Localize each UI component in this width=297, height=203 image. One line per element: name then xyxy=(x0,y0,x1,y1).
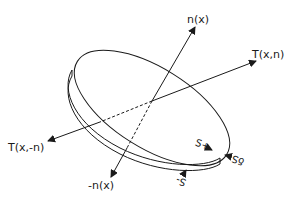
hidden-line-traction-neg xyxy=(100,101,152,122)
disc-rim xyxy=(68,70,220,171)
label-traction-neg: T(x,-n) xyxy=(8,142,44,153)
label-traction-pos: T(x,n) xyxy=(252,49,284,60)
diagram-canvas: n(x) T(x,n) T(x,-n) -n(x) S+ δS S- xyxy=(0,0,297,203)
disc-diagram-svg xyxy=(0,0,297,203)
hidden-line-neg-normal xyxy=(127,101,152,148)
arrow-traction-pos xyxy=(152,61,256,101)
label-normal: n(x) xyxy=(187,14,209,25)
arrow-neg-normal xyxy=(111,148,127,177)
label-neg-normal: -n(x) xyxy=(88,180,114,191)
arrow-normal xyxy=(152,27,195,101)
arrow-traction-neg xyxy=(48,122,100,141)
